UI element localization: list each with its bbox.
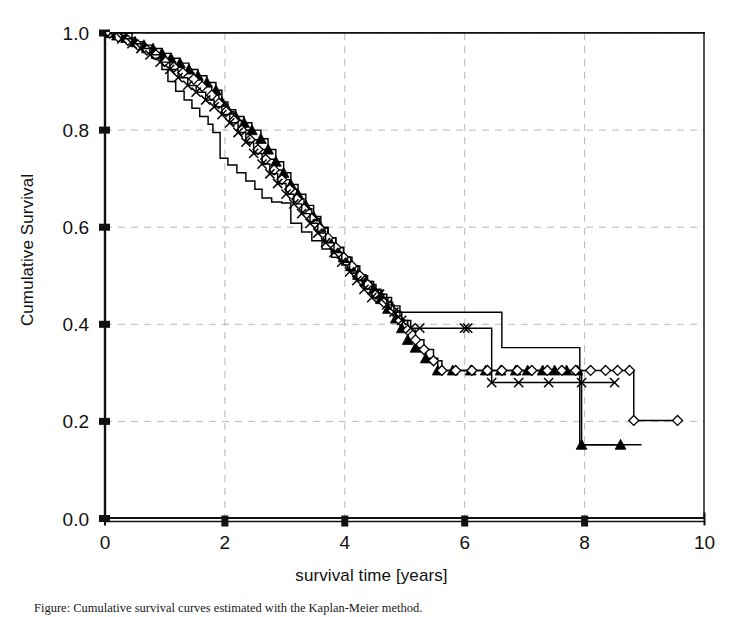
svg-text:4: 4: [340, 532, 351, 553]
svg-text:0.0: 0.0: [63, 509, 89, 530]
y-axis-title: Cumulative Survival: [18, 160, 38, 340]
svg-text:2: 2: [220, 532, 231, 553]
tick-labels: 0.00.20.40.60.81.00246810: [63, 23, 715, 553]
gridlines: [105, 33, 705, 519]
survival-curves: [103, 28, 683, 450]
svg-text:0.4: 0.4: [63, 314, 90, 335]
svg-text:6: 6: [459, 532, 470, 553]
x-axis-title: survival time [years]: [0, 566, 743, 586]
svg-text:0.2: 0.2: [63, 411, 89, 432]
curve-cross-curve: [106, 28, 619, 387]
svg-text:10: 10: [694, 532, 715, 553]
svg-text:8: 8: [579, 532, 590, 553]
svg-text:0.8: 0.8: [63, 120, 89, 141]
figure-caption: Figure: Cumulative survival curves estim…: [34, 601, 724, 617]
axis-ticks: [99, 30, 705, 527]
survival-plot: 0.00.20.40.60.81.00246810: [0, 0, 743, 617]
axis-lines: [105, 32, 705, 522]
svg-text:0: 0: [100, 532, 111, 553]
svg-text:1.0: 1.0: [63, 23, 89, 44]
svg-text:0.6: 0.6: [63, 217, 89, 238]
kaplan-meier-figure: 0.00.20.40.60.81.00246810 Cumulative Sur…: [0, 0, 743, 617]
